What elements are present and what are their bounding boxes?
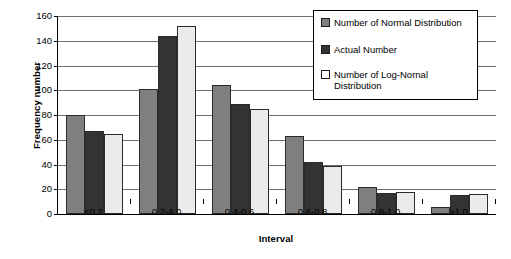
legend-label: Number of Log-Nornal Distribution <box>334 69 474 91</box>
bar <box>231 104 250 214</box>
x-axis-tick-label: 0.4-0.6 <box>225 206 255 217</box>
y-axis-tick <box>54 214 58 215</box>
x-axis-tick <box>276 199 277 204</box>
y-axis-title: Frequency number <box>31 21 42 191</box>
bar-group <box>204 16 277 214</box>
x-axis-tick-label: >1.0 <box>449 206 468 217</box>
y-axis-tick-label: 60 <box>41 135 52 145</box>
x-axis-tick <box>349 199 350 204</box>
legend-item: Number of Normal Distribution <box>321 17 462 28</box>
bar <box>85 131 104 214</box>
bar <box>104 134 123 214</box>
bar <box>139 89 158 214</box>
y-axis-tick-label: 0 <box>47 209 52 219</box>
bar-group <box>131 16 204 214</box>
y-axis-tick-label: 20 <box>41 185 52 195</box>
bar-chart: Frequency number 020406080100120140160 I… <box>0 0 511 259</box>
x-axis-tick <box>130 199 131 204</box>
legend-item: Actual Number <box>321 44 397 55</box>
y-axis-tick-label: 140 <box>36 36 52 46</box>
x-axis-tick-label: 0.2-4.0 <box>152 206 182 217</box>
bar <box>158 36 177 214</box>
bar <box>212 85 231 214</box>
y-axis-tick-label: 120 <box>36 61 52 71</box>
legend-swatch-log-normal-distribution <box>321 70 330 79</box>
x-axis-tick <box>422 199 423 204</box>
legend-item: Number of Log-Nornal Distribution <box>321 69 474 91</box>
x-axis-title: Interval <box>57 233 495 244</box>
x-axis-tick-label: 0.6-0.8 <box>298 206 328 217</box>
y-axis-tick-label: 80 <box>41 110 52 120</box>
bar <box>66 115 85 214</box>
legend-swatch-normal-distribution <box>321 18 330 27</box>
bar <box>285 136 304 214</box>
bar-group <box>58 16 131 214</box>
bar <box>250 109 269 214</box>
bar <box>177 26 196 214</box>
y-axis-tick-label: 160 <box>36 11 52 21</box>
x-axis-tick <box>203 199 204 204</box>
legend-label: Number of Normal Distribution <box>334 17 462 28</box>
chart-legend: Number of Normal Distribution Actual Num… <box>313 10 478 100</box>
y-axis-tick-label: 100 <box>36 86 52 96</box>
bar <box>431 207 450 214</box>
y-axis-tick-label: 40 <box>41 160 52 170</box>
bar <box>469 194 488 214</box>
legend-swatch-actual-number <box>321 45 330 54</box>
x-axis-tick-label: 0.8-1.0 <box>371 206 401 217</box>
x-axis-tick-label: <0.2 <box>84 206 103 217</box>
legend-label: Actual Number <box>334 44 397 55</box>
x-axis-tick <box>495 199 496 204</box>
